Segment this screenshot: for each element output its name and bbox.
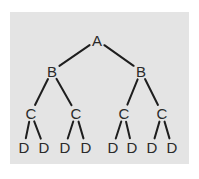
tree-edge	[68, 122, 73, 139]
node-d8: D	[167, 139, 178, 156]
tree-edge	[104, 45, 133, 66]
node-a: A	[92, 32, 102, 49]
node-b1: B	[47, 63, 57, 80]
tree-edge	[116, 122, 121, 139]
node-d2: D	[39, 139, 50, 156]
node-d5: D	[108, 139, 119, 156]
node-d3: D	[60, 139, 71, 156]
node-d7: D	[147, 139, 158, 156]
tree-edge	[34, 121, 41, 138]
node-d6: D	[127, 139, 138, 156]
tree-edge	[26, 122, 29, 138]
node-d1: D	[19, 139, 30, 156]
node-c2: C	[71, 105, 82, 122]
tree-edges	[26, 45, 170, 138]
node-c3: C	[119, 105, 130, 122]
node-b2: B	[136, 63, 146, 80]
tree-edge	[126, 122, 130, 138]
node-d4: D	[81, 139, 92, 156]
tree-edge	[127, 79, 137, 104]
tree-edge	[35, 79, 48, 105]
tree-nodes: A B B C C C C D D D D D D D D	[19, 32, 178, 156]
tree-diagram: A B B C C C C D D D D D D D D	[0, 0, 199, 179]
tree-edge	[56, 79, 71, 105]
node-c4: C	[157, 105, 168, 122]
tree-edge	[155, 122, 160, 139]
tree-edge	[59, 45, 89, 66]
tree-edge	[79, 122, 84, 139]
tree-edge	[165, 122, 170, 139]
tree-edge	[145, 79, 158, 105]
node-c1: C	[26, 105, 37, 122]
